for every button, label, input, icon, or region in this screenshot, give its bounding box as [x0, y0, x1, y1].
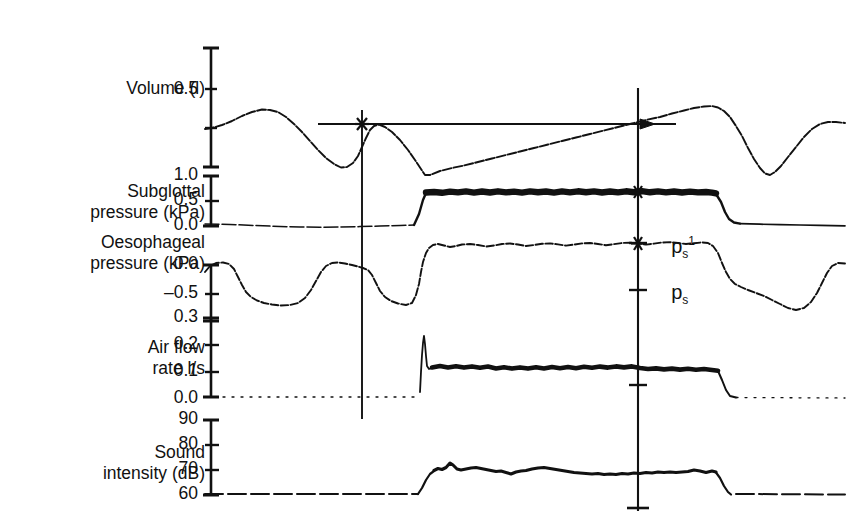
trace-oesophageal: [205, 242, 845, 310]
axis-subglottal: [203, 175, 219, 227]
axis-airflow: [203, 317, 219, 398]
trace-subglottal-onset: [414, 193, 426, 225]
axis-sound: [203, 419, 219, 496]
trace-subglottal-baseline-left: [205, 224, 414, 227]
trace-sound-baseline-right: [736, 494, 845, 495]
trace-sound-onset: [418, 471, 434, 494]
traces-svg: [0, 0, 850, 517]
axis-volume: [203, 47, 219, 168]
trace-sound-plateau: [434, 463, 716, 475]
trace-volume-path: [205, 106, 845, 175]
trace-airflow-baseline-right: [736, 398, 845, 399]
trace-subglottal: [205, 191, 845, 227]
trace-sound: [205, 463, 845, 495]
trace-volume: [205, 106, 845, 175]
trace-subglottal-baseline-right: [740, 224, 845, 226]
trace-oesophageal-path: [205, 242, 845, 310]
trace-airflow-offset: [718, 371, 736, 398]
trace-airflow: [205, 336, 845, 398]
trace-sound-offset: [716, 473, 731, 495]
cursor-right[interactable]: [627, 88, 649, 511]
trace-airflow-plateau: [432, 366, 718, 371]
trace-subglottal-plateau: [426, 191, 716, 193]
trace-airflow-onset-spike: [420, 336, 432, 392]
figure-root: Volume (l) 0.5 Subglottal pressure (kPa)…: [0, 0, 850, 517]
trace-subglottal-offset: [716, 194, 740, 224]
